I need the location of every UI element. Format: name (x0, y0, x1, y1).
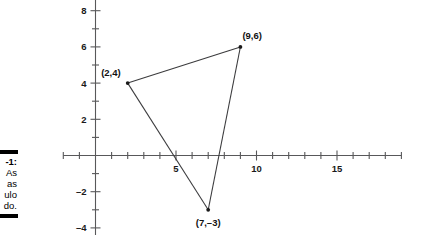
y-axis-label-6: 6 (81, 41, 86, 52)
y-axis-label-4: 4 (81, 78, 87, 89)
y-axis-label--2: –2 (76, 186, 87, 197)
triangle-edge-0 (128, 47, 241, 83)
triangle-edge-2 (128, 83, 209, 210)
data-point-label-2: (7,–3) (196, 217, 221, 228)
x-axis-label-15: 15 (332, 163, 343, 174)
x-axis-label-5: 5 (173, 163, 179, 174)
data-point-2 (206, 208, 210, 212)
y-axis-label--4: –4 (76, 222, 87, 233)
data-point-label-1: (9,6) (242, 30, 262, 41)
y-axis-label-8: 8 (81, 5, 86, 16)
x-axis-label-10: 10 (251, 163, 262, 174)
data-point-label-0: (2,4) (101, 67, 121, 78)
data-point-0 (126, 81, 130, 85)
figure-canvas: -1: As as ulo do. 51015–4–22468(2,4)(9,6… (0, 0, 433, 235)
y-axis-label-2: 2 (81, 114, 86, 125)
triangle-edge-1 (208, 47, 240, 210)
coordinate-plot: 51015–4–22468(2,4)(9,6)(7,–3) (0, 0, 433, 235)
data-point-1 (239, 45, 243, 49)
